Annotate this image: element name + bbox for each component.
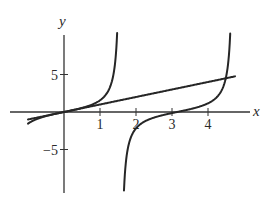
y-tick-label: 5 (51, 68, 58, 83)
x-tick-label: 3 (169, 117, 176, 132)
curve-y-tan-x-branch-1- (28, 33, 117, 124)
chart-plot-area: 1234 5−5 x y (0, 0, 271, 203)
y-tick-label: −5 (43, 143, 58, 158)
y-axis-label: y (57, 13, 66, 29)
x-axis-label: x (252, 103, 260, 119)
x-tick-label: 4 (205, 117, 212, 132)
x-tick-label: 1 (97, 117, 104, 132)
